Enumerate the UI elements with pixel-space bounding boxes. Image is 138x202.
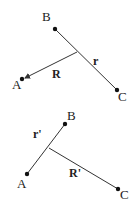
line-b-c <box>55 29 117 90</box>
point-A-label: A <box>17 176 27 191</box>
vector-R-label: R <box>52 67 61 81</box>
vector-R-prime-label: R' <box>69 166 81 180</box>
point-A-label: A <box>12 77 22 92</box>
point-C-label: C <box>120 187 129 202</box>
vector-R-prime <box>49 148 118 189</box>
vector-R <box>25 52 77 78</box>
top-diagram: A B C R r <box>12 9 127 104</box>
point-B-label: B <box>42 9 51 24</box>
point-C-label: C <box>118 89 127 104</box>
jacobi-coordinates-diagram: A B C R r A B C r' R' <box>0 0 138 202</box>
bottom-diagram: A B C r' R' <box>17 108 129 202</box>
point-B-label: B <box>67 108 76 123</box>
vector-r-label: r <box>93 54 99 68</box>
point-B-dot <box>53 27 57 31</box>
vector-r-prime-label: r' <box>33 127 42 141</box>
